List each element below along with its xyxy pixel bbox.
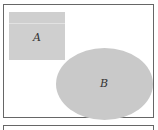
set-a-label: A <box>33 31 41 44</box>
set-b-label: B <box>100 77 108 90</box>
next-figure-box-edge <box>3 125 154 130</box>
highlight-line <box>9 23 65 24</box>
